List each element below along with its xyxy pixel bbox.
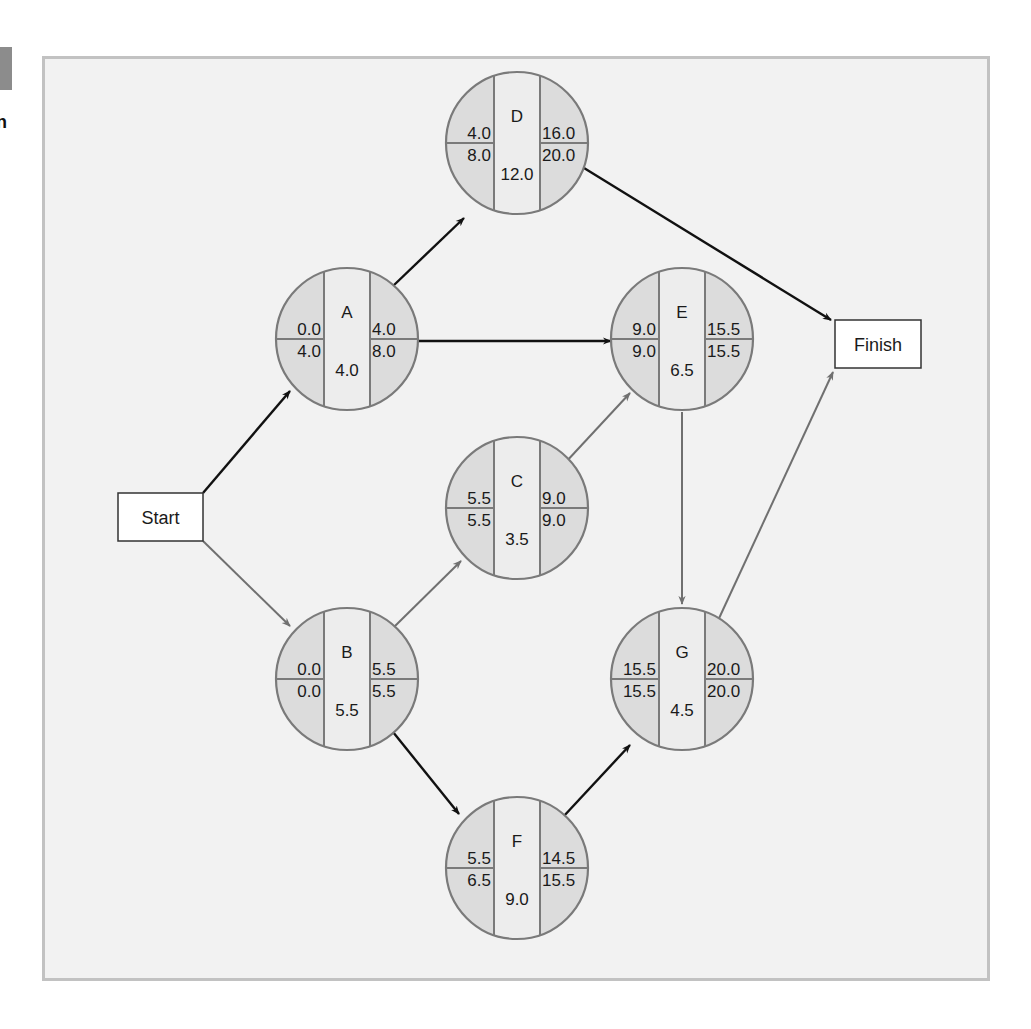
earliest-start: 0.0: [297, 660, 321, 679]
activity-name: G: [675, 643, 688, 662]
earliest-finish: 14.5: [542, 849, 575, 868]
network-diagram: D4.08.016.020.012.0A0.04.04.08.04.0E9.09…: [0, 0, 1031, 1029]
latest-start: 8.0: [467, 146, 491, 165]
earliest-finish: 4.0: [372, 320, 396, 339]
latest-start: 5.5: [467, 511, 491, 530]
activity-duration: 12.0: [500, 165, 533, 184]
activity-node-e: E9.09.015.515.56.5: [611, 268, 753, 410]
activity-name: A: [341, 303, 353, 322]
edge-b-to-c: [394, 561, 461, 627]
latest-start: 15.5: [623, 682, 656, 701]
edge-start-to-b: [203, 541, 290, 626]
activity-duration: 5.5: [335, 701, 359, 720]
earliest-start: 5.5: [467, 849, 491, 868]
activity-duration: 4.0: [335, 361, 359, 380]
finish-box: Finish: [835, 320, 921, 368]
latest-finish: 15.5: [707, 342, 740, 361]
activity-duration: 4.5: [670, 701, 694, 720]
edge-start-to-a: [203, 391, 290, 493]
activity-name: D: [511, 107, 523, 126]
start-box: Start: [118, 493, 203, 541]
latest-start: 6.5: [467, 871, 491, 890]
activity-node-b: B0.00.05.55.55.5: [276, 608, 418, 750]
latest-finish: 5.5: [372, 682, 396, 701]
activity-node-d: D4.08.016.020.012.0: [446, 72, 588, 214]
edge-f-to-g: [563, 745, 630, 817]
activity-node-g: G15.515.520.020.04.5: [611, 608, 753, 750]
activity-duration: 3.5: [505, 530, 529, 549]
earliest-start: 15.5: [623, 660, 656, 679]
activity-node-a: A0.04.04.08.04.0: [276, 268, 418, 410]
earliest-finish: 20.0: [707, 660, 740, 679]
earliest-start: 0.0: [297, 320, 321, 339]
latest-start: 0.0: [297, 682, 321, 701]
finish-label: Finish: [854, 335, 902, 355]
earliest-finish: 16.0: [542, 124, 575, 143]
activity-name: F: [512, 832, 522, 851]
edge-g-to-finish: [715, 372, 833, 627]
edge-c-to-e: [565, 393, 630, 463]
activity-duration: 6.5: [670, 361, 694, 380]
earliest-start: 5.5: [467, 489, 491, 508]
latest-start: 9.0: [632, 342, 656, 361]
activity-node-f: F5.56.514.515.59.0: [446, 797, 588, 939]
latest-finish: 9.0: [542, 511, 566, 530]
earliest-finish: 15.5: [707, 320, 740, 339]
earliest-start: 4.0: [467, 124, 491, 143]
latest-finish: 20.0: [542, 146, 575, 165]
activity-node-c: C5.55.59.09.03.5: [446, 437, 588, 579]
activity-name: B: [341, 643, 352, 662]
latest-finish: 15.5: [542, 871, 575, 890]
edge-a-to-d: [393, 218, 464, 286]
activity-name: E: [676, 303, 687, 322]
latest-start: 4.0: [297, 342, 321, 361]
activity-duration: 9.0: [505, 890, 529, 909]
earliest-start: 9.0: [632, 320, 656, 339]
edge-b-to-f: [393, 732, 459, 814]
activity-name: C: [511, 472, 523, 491]
start-label: Start: [141, 508, 179, 528]
latest-finish: 20.0: [707, 682, 740, 701]
earliest-finish: 9.0: [542, 489, 566, 508]
latest-finish: 8.0: [372, 342, 396, 361]
earliest-finish: 5.5: [372, 660, 396, 679]
